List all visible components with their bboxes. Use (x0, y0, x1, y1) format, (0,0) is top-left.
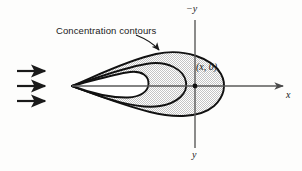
negative-y-axis-label: −y (186, 4, 197, 14)
concentration-contours-figure: Concentration contours (x, 0) x −y y (0, 0, 302, 171)
y-axis-label: y (192, 150, 196, 160)
point-coordinate-label: (x, 0) (196, 62, 217, 72)
concentration-contours-label: Concentration contours (56, 26, 156, 36)
x-axis-label: x (286, 90, 290, 100)
contour-inner (72, 72, 149, 98)
annotation-leader-arrow (136, 35, 159, 50)
marked-point-dot (193, 84, 198, 89)
